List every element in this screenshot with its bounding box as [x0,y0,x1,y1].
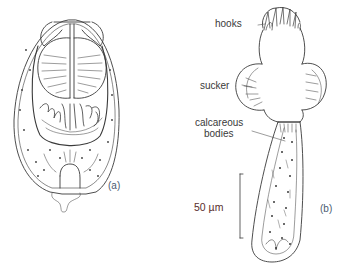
scolex-drawing [236,7,327,262]
panel-b-tag: (b) [320,203,332,214]
label-hooks: hooks [215,18,242,29]
label-calcareous-line2: bodies [204,128,233,139]
diagram-canvas [0,0,353,270]
label-sucker: sucker [200,80,229,91]
panel-a-tag: (a) [108,180,120,191]
label-calcareous-line1: calcareous [195,117,243,128]
scale-bar-label: 50 µm [194,202,223,213]
hooks-leader [258,24,265,25]
calcareous-leader [252,131,285,141]
protoscolex-drawing [14,20,119,212]
scale-bar [240,174,243,238]
